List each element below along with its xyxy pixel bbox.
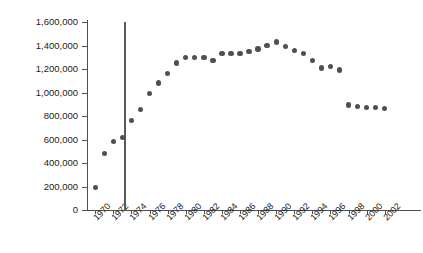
x-axis-tick-label: 1992: [291, 202, 312, 223]
data-point: [102, 151, 107, 156]
data-point: [264, 43, 269, 48]
data-point: [138, 107, 143, 112]
data-point: [292, 48, 297, 53]
y-axis-tick-label: 600,000: [4, 135, 78, 145]
y-axis-tick-label: 800,000: [4, 111, 78, 121]
x-axis-tick-label: 2000: [364, 202, 385, 223]
data-point: [274, 39, 279, 44]
data-point: [147, 91, 152, 96]
x-axis-tick-label: 2002: [382, 202, 403, 223]
data-point: [337, 67, 342, 72]
y-axis-tick-label: 1,000,000: [4, 88, 78, 98]
data-point: [301, 51, 306, 56]
data-point: [382, 106, 387, 111]
data-point: [165, 71, 170, 76]
data-point: [129, 118, 134, 123]
x-axis-tick-label: 1974: [128, 202, 149, 223]
y-axis-tick-label: 1,400,000: [4, 41, 78, 51]
x-axis-tick-label: 1984: [219, 202, 240, 223]
y-axis-tick-label: 200,000: [4, 182, 78, 192]
x-axis-tick-label: 1976: [147, 202, 168, 223]
chart-container: Number of legal abortions 0200,000400,00…: [0, 0, 423, 253]
data-point: [255, 46, 260, 51]
data-point: [111, 139, 116, 144]
data-point: [228, 51, 233, 56]
y-axis-tick: [82, 187, 87, 188]
data-point: [192, 55, 197, 60]
data-point: [373, 105, 378, 110]
y-axis-tick: [82, 22, 87, 23]
x-axis-tick-label: 1980: [183, 202, 204, 223]
data-point: [328, 64, 333, 69]
y-axis-tick: [82, 163, 87, 164]
y-axis-tick: [82, 93, 87, 94]
data-point: [364, 105, 369, 110]
y-axis-tick: [82, 69, 87, 70]
data-point: [283, 44, 288, 49]
x-axis-tick-label: 1972: [110, 202, 131, 223]
x-axis-tick-label: 1982: [201, 202, 222, 223]
data-point: [355, 104, 360, 109]
y-axis-tick-label: 1,600,000: [4, 17, 78, 27]
data-point: [237, 51, 242, 56]
x-axis-tick-label: 1990: [273, 202, 294, 223]
data-point: [210, 58, 215, 63]
data-point: [201, 55, 206, 60]
data-point: [310, 58, 315, 63]
y-axis-tick: [82, 116, 87, 117]
x-axis-tick-label: 1996: [327, 202, 348, 223]
x-axis-tick-label: 1998: [346, 202, 367, 223]
x-axis-tick-label: 1978: [165, 202, 186, 223]
y-axis-tick: [82, 140, 87, 141]
data-point: [93, 185, 98, 190]
roe-v-wade-line: [124, 22, 125, 211]
x-axis-tick-label: 1986: [237, 202, 258, 223]
y-axis-tick-label: 400,000: [4, 158, 78, 168]
y-axis-line: [87, 20, 88, 211]
data-point: [174, 60, 179, 65]
data-point: [219, 51, 224, 56]
data-point: [246, 49, 251, 54]
x-axis-tick-label: 1970: [92, 202, 113, 223]
data-point: [319, 65, 324, 70]
data-point: [156, 80, 161, 85]
y-axis-tick-label: 0: [4, 205, 78, 215]
x-axis-tick-label: 1994: [309, 202, 330, 223]
x-axis-tick-label: 1988: [255, 202, 276, 223]
y-axis-tick: [82, 210, 87, 211]
y-axis-tick: [82, 46, 87, 47]
data-point: [183, 55, 188, 60]
data-point: [346, 102, 351, 107]
y-axis-tick-label: 1,200,000: [4, 64, 78, 74]
